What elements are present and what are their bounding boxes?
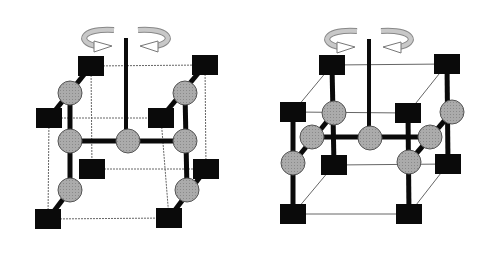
metal-node-square: [148, 108, 174, 128]
metal-node-square: [193, 159, 219, 179]
metal-node-square: [79, 159, 105, 179]
thin-edge-line: [91, 66, 92, 169]
metal-node-square: [434, 54, 460, 74]
metal-node-square: [395, 103, 421, 123]
thin-edge-line: [48, 118, 49, 219]
ligand-node-circle: [358, 126, 382, 150]
metal-node-square: [36, 108, 62, 128]
metal-node-square: [319, 55, 345, 75]
thin-edge-line: [293, 112, 408, 113]
metal-node-square: [78, 56, 104, 76]
metal-node-square: [321, 155, 347, 175]
metal-node-square: [35, 209, 61, 229]
arrowhead-left-icon: [140, 41, 158, 52]
ligand-node-circle: [397, 150, 421, 174]
ligand-node-circle: [173, 81, 197, 105]
ligand-node-circle: [58, 81, 82, 105]
thin-edge-line: [161, 118, 169, 218]
metal-node-square: [435, 154, 461, 174]
lattice-diagram-canvas: [0, 0, 497, 264]
ligand-node-circle: [116, 129, 140, 153]
metal-node-square: [280, 204, 306, 224]
ligand-node-circle: [418, 125, 442, 149]
arrowhead-right-icon: [94, 41, 112, 52]
thin-edge-line: [332, 64, 447, 65]
ligand-node-circle: [281, 151, 305, 175]
right-lattice-diagram: [280, 31, 464, 224]
thin-edge-line: [91, 65, 205, 66]
metal-node-square: [396, 204, 422, 224]
metal-node-square: [192, 55, 218, 75]
arrowhead-left-icon: [383, 42, 401, 53]
ligand-node-circle: [58, 129, 82, 153]
arrowhead-right-icon: [337, 42, 355, 53]
thin-edge-line: [334, 164, 448, 165]
metal-node-square: [280, 102, 306, 122]
ligand-node-circle: [173, 129, 197, 153]
ligand-node-circle: [58, 178, 82, 202]
ligand-node-circle: [440, 100, 464, 124]
left-lattice-diagram: [35, 30, 219, 229]
ligand-node-circle: [322, 101, 346, 125]
thin-edge-line: [48, 218, 169, 219]
ligand-node-circle: [175, 178, 199, 202]
metal-node-square: [156, 208, 182, 228]
ligand-node-circle: [300, 125, 324, 149]
thin-edge-line: [205, 65, 206, 169]
